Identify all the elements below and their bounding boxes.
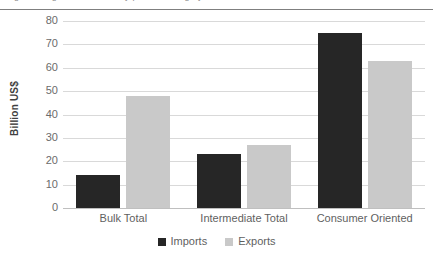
plot-area	[63, 21, 425, 208]
x-axis-label-consumer-oriented: Consumer Oriented	[304, 212, 425, 224]
legend-item-exports[interactable]: Exports	[225, 236, 275, 247]
gridline-80	[63, 21, 425, 22]
x-axis-category-labels: Bulk TotalIntermediate TotalConsumer Ori…	[63, 212, 425, 230]
y-tick-label-20: 20	[18, 155, 58, 166]
y-tick-label-40: 40	[18, 109, 58, 120]
gridline-70	[63, 44, 425, 45]
y-tick-label-0: 0	[18, 202, 58, 213]
bar-exports-consumer-oriented	[368, 61, 412, 208]
gridline-0	[63, 208, 425, 209]
bar-exports-bulk-total	[126, 96, 170, 208]
chart-legend: ImportsExports	[0, 236, 433, 247]
legend-item-imports[interactable]: Imports	[158, 236, 208, 247]
y-tick-label-60: 60	[18, 62, 58, 73]
bar-imports-consumer-oriented	[318, 33, 362, 208]
y-axis-tick-labels: 80706050403020100	[0, 21, 63, 208]
legend-swatch-imports-icon	[158, 238, 166, 246]
y-tick-label-10: 10	[18, 179, 58, 190]
x-axis-label-intermediate-total: Intermediate Total	[184, 212, 305, 224]
y-tick-label-50: 50	[18, 85, 58, 96]
y-tick-label-70: 70	[18, 38, 58, 49]
legend-label-exports: Exports	[238, 236, 275, 247]
cut-off-caption-text: Figure 3. Agricultural trade by product …	[6, 0, 203, 1]
bar-imports-intermediate-total	[197, 154, 241, 208]
y-tick-label-30: 30	[18, 132, 58, 143]
legend-label-imports: Imports	[171, 236, 208, 247]
top-divider	[0, 9, 433, 10]
x-axis-label-bulk-total: Bulk Total	[63, 212, 184, 224]
cut-off-caption-row: Figure 3. Agricultural trade by product …	[0, 0, 433, 9]
bar-exports-intermediate-total	[247, 145, 291, 208]
y-tick-label-80: 80	[18, 15, 58, 26]
bar-imports-bulk-total	[76, 175, 120, 208]
legend-swatch-exports-icon	[225, 238, 233, 246]
bar-chart: Figure 3. Agricultural trade by product …	[0, 0, 433, 263]
